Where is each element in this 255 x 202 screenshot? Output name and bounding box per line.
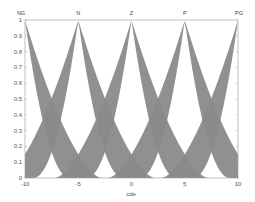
y-tick-label: 0.3 bbox=[14, 128, 23, 134]
x-tick-label: 10 bbox=[235, 181, 242, 187]
y-tick-label: 0.9 bbox=[14, 33, 23, 39]
y-tick-label: 0.5 bbox=[14, 96, 23, 102]
x-tick-label: 5 bbox=[183, 181, 187, 187]
y-tick-label: 0.1 bbox=[14, 159, 23, 165]
mf-label-ng: NG bbox=[17, 10, 25, 16]
y-tick-label: 1 bbox=[19, 17, 23, 23]
x-tick-label: 0 bbox=[130, 181, 134, 187]
x-tick-label: -5 bbox=[76, 181, 82, 187]
mf-label-p: P bbox=[183, 10, 187, 16]
membership-function-chart: 00.10.20.30.40.50.60.70.80.91 -10-50510 … bbox=[0, 0, 255, 202]
y-tick-label: 0.4 bbox=[14, 112, 23, 118]
membership-function-labels: NGNZPPG bbox=[17, 10, 243, 16]
y-tick-label: 0.6 bbox=[14, 80, 23, 86]
y-tick-label: 0.7 bbox=[14, 64, 23, 70]
x-tick-label: -10 bbox=[21, 181, 30, 187]
y-tick-label: 0.8 bbox=[14, 49, 23, 55]
mf-label-n: N bbox=[76, 10, 80, 16]
x-axis: -10-50510 bbox=[21, 176, 242, 187]
mf-label-pg: PG bbox=[235, 10, 243, 16]
x-axis-title: cde bbox=[126, 191, 136, 197]
footprint-of-uncertainty-bands bbox=[25, 20, 238, 178]
y-tick-label: 0.2 bbox=[14, 143, 23, 149]
mf-label-z: Z bbox=[130, 10, 134, 16]
